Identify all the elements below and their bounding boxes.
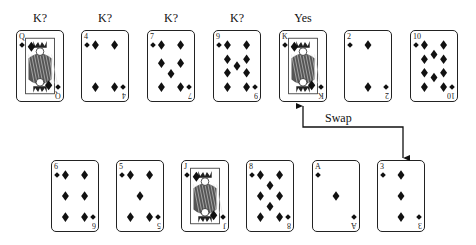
card-index-top: 4 <box>84 33 88 41</box>
card-index-bottom: J <box>223 221 226 229</box>
card-index-bottom: 7 <box>188 91 192 99</box>
card-index-bottom: 3 <box>418 221 422 229</box>
card-index-bottom: A <box>351 221 357 229</box>
card-index-top: Q <box>19 33 25 41</box>
top-card-9: 99 <box>213 30 261 102</box>
bottom-card-8: 88 <box>246 160 294 232</box>
top-card-q: QQ <box>16 30 64 102</box>
bottom-card-6: 66 <box>51 160 99 232</box>
card-index-top: 5 <box>119 163 123 171</box>
card-index-top: J <box>184 163 187 171</box>
card-label: Yes <box>278 11 328 26</box>
card-index-bottom: 4 <box>122 91 126 99</box>
top-card-k: KK <box>279 30 327 102</box>
card-label: K? <box>212 11 262 26</box>
card-label: K? <box>15 11 65 26</box>
card-label: K? <box>146 11 196 26</box>
card-index-top: A <box>315 163 321 171</box>
card-index-bottom: 8 <box>287 221 291 229</box>
bottom-card-5: 55 <box>116 160 164 232</box>
top-card-4: 44 <box>81 30 129 102</box>
bottom-card-3: 33 <box>377 160 425 232</box>
top-card-7: 77 <box>147 30 195 102</box>
card-index-top: 6 <box>54 163 58 171</box>
card-index-top: 2 <box>347 33 351 41</box>
top-card-2: 22 <box>344 30 392 102</box>
card-index-top: 3 <box>380 163 384 171</box>
card-label: K? <box>80 11 130 26</box>
card-index-bottom: 10 <box>447 91 455 99</box>
card-index-top: K <box>282 33 288 41</box>
swap-label: Swap <box>325 111 352 126</box>
bottom-card-a: AA <box>312 160 360 232</box>
card-index-top: 8 <box>249 163 253 171</box>
card-index-bottom: 5 <box>157 221 161 229</box>
card-index-bottom: 2 <box>385 91 389 99</box>
card-index-top: 7 <box>150 33 154 41</box>
top-card-10: 1010 <box>410 30 458 102</box>
card-index-bottom: 9 <box>254 91 258 99</box>
card-face-art <box>182 161 228 231</box>
card-index-top: 10 <box>413 33 421 41</box>
card-index-bottom: K <box>318 91 324 99</box>
card-index-bottom: 6 <box>92 221 96 229</box>
bottom-card-j: JJ <box>181 160 229 232</box>
card-index-top: 9 <box>216 33 220 41</box>
card-index-bottom: Q <box>55 91 61 99</box>
